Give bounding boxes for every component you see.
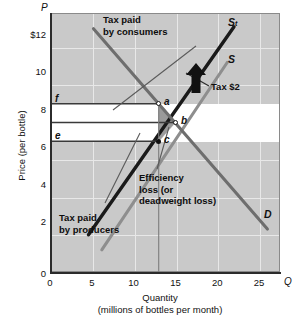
- annotation-tax-consumers-line2: by consumers: [103, 26, 167, 38]
- point-label-b: b: [181, 115, 187, 126]
- annotation-efficiency-loss-line1: Efficiency: [139, 172, 216, 184]
- y-tick-10: 10: [0, 66, 46, 77]
- annotation-tax-consumers-line1: Tax paid: [103, 14, 167, 26]
- x-axis-title: Quantity: [40, 292, 280, 304]
- x-tick-15: 15: [164, 277, 188, 288]
- x-tick-20: 20: [205, 277, 229, 288]
- curve-label-supply-tax: St: [228, 16, 237, 28]
- x-axis-cap: Q: [284, 276, 292, 287]
- x-axis: [50, 272, 281, 274]
- x-tick-5: 5: [80, 277, 104, 288]
- y-tick-12: $12: [0, 29, 46, 40]
- x-tick-25: 25: [247, 277, 271, 288]
- annotation-tax-amount: Tax $2: [211, 81, 240, 93]
- y-tick-2: 2: [0, 216, 46, 227]
- annotation-efficiency-loss-line3: deadweight loss): [139, 195, 216, 207]
- annotation-tax-producers-line2: by producers: [59, 224, 119, 236]
- curve-label-demand: D: [264, 208, 272, 220]
- y-axis-title: Price (per bottle): [16, 81, 27, 211]
- curve-label-supply-tax-sub: t: [235, 20, 237, 27]
- supply-curve: [102, 63, 227, 250]
- curve-label-supply-tax-text: S: [228, 16, 235, 28]
- tax-incidence-chart: P Q $12 10 8 6 4 2 0 0 5 10 15 20 25 Pri…: [0, 0, 298, 327]
- annotation-efficiency-loss: Efficiency loss (or deadweight loss): [139, 172, 216, 207]
- y-axis-cap: P: [41, 2, 48, 13]
- point-marker-b: [173, 120, 178, 125]
- annotation-tax-paid-by-producers: Tax paid by producers: [59, 212, 119, 235]
- point-label-f: f: [55, 93, 58, 104]
- point-label-e: e: [55, 130, 61, 141]
- point-label-c: c: [164, 134, 170, 145]
- annotation-tax-paid-by-consumers: Tax paid by consumers: [103, 14, 167, 37]
- curve-label-supply: S: [228, 53, 235, 65]
- x-tick-0: 0: [38, 277, 62, 288]
- x-tick-10: 10: [122, 277, 146, 288]
- point-marker-c: [156, 139, 161, 144]
- tax-shift-arrow-icon: [185, 63, 207, 93]
- annotation-tax-producers-line1: Tax paid: [59, 212, 119, 224]
- y-axis: [50, 13, 52, 273]
- x-axis-title-wrap: Quantity (millions of bottles per month): [40, 292, 280, 316]
- point-label-a: a: [164, 96, 170, 107]
- x-axis-subtitle: (millions of bottles per month): [40, 304, 280, 316]
- annotation-efficiency-loss-line2: loss (or: [139, 184, 216, 196]
